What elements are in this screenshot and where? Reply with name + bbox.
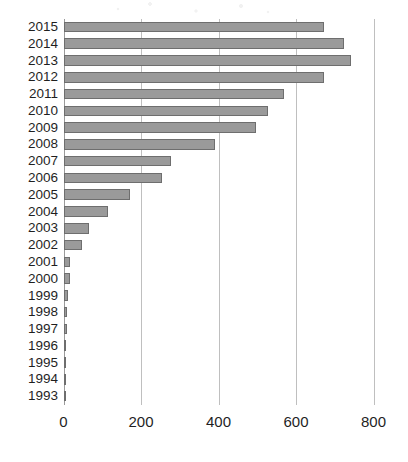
bar [64,89,284,100]
y-axis-tick-label: 2015 [6,19,58,36]
bar-row [64,120,374,137]
y-axis-tick-label: 2013 [6,53,58,70]
bar-row [64,288,374,305]
bar [64,122,257,133]
y-axis-tick-label: 2001 [6,254,58,271]
y-axis-tick-label: 2003 [6,220,58,237]
bar [64,189,130,200]
x-axis-tick-label: 400 [206,412,231,432]
bar-row [64,53,374,70]
bar [64,340,66,351]
y-axis-tick-label: 2006 [6,170,58,187]
bar-row [64,321,374,338]
y-axis-tick-label: 1993 [6,388,58,405]
bar-row [64,304,374,321]
y-axis-category-labels: 2015201420132012201120102009200820072006… [0,19,58,405]
bar [64,173,162,184]
bar [64,240,83,251]
bar [64,38,345,49]
bar-row [64,153,374,170]
y-axis-tick-label: 1995 [6,355,58,372]
bar [64,290,69,301]
y-axis-tick-label: 1994 [6,371,58,388]
bar [64,72,324,83]
bar [64,139,215,150]
bar [64,273,71,284]
gridline-800 [374,19,375,405]
bar [64,374,66,385]
bar-row [64,237,374,254]
y-axis-tick-label: 2014 [6,36,58,53]
bar-row [64,36,374,53]
bar-row [64,254,374,271]
y-axis-tick-label: 2004 [6,204,58,221]
x-axis-value-labels: 0200400600800 [64,412,374,442]
y-axis-tick-label: 1996 [6,338,58,355]
y-axis-tick-label: 2009 [6,120,58,137]
x-axis-tick-label: 600 [283,412,308,432]
bar [64,22,324,33]
y-axis-tick-label: 2012 [6,69,58,86]
bar [64,257,71,268]
bar-row [64,220,374,237]
y-axis-tick-label: 1997 [6,321,58,338]
bar-row [64,136,374,153]
scan-artifact-noise [0,0,408,16]
bar [64,55,352,66]
bar [64,391,66,402]
bar-row [64,19,374,36]
bar-row [64,355,374,372]
bar [64,357,66,368]
bar [64,307,67,318]
bar-chart: 2015201420132012201120102009200820072006… [0,0,408,462]
bar-row [64,103,374,120]
x-axis-tick-label: 800 [361,412,386,432]
x-axis-tick-label: 200 [128,412,153,432]
bar-row [64,271,374,288]
y-axis-tick-label: 1998 [6,304,58,321]
bar [64,156,171,167]
bar-row [64,170,374,187]
bar [64,223,90,234]
plot-area [64,19,374,405]
x-axis-tick-label: 0 [59,412,67,432]
bar-row [64,388,374,405]
y-axis-tick-label: 2007 [6,153,58,170]
y-axis-tick-label: 2010 [6,103,58,120]
bar [64,206,109,217]
bar-row [64,371,374,388]
bar-row [64,204,374,221]
bar-row [64,69,374,86]
y-axis-tick-label: 2002 [6,237,58,254]
y-axis-tick-label: 1999 [6,288,58,305]
y-axis-tick-label: 2000 [6,271,58,288]
bar-row [64,338,374,355]
y-axis-tick-label: 2005 [6,187,58,204]
bar-row [64,86,374,103]
bar [64,324,67,335]
bar-row [64,187,374,204]
bar [64,106,268,117]
y-axis-tick-label: 2008 [6,136,58,153]
y-axis-tick-label: 2011 [6,86,58,103]
